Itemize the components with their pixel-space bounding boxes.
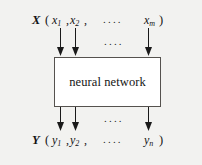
input-arrow-1: [56, 28, 65, 57]
input-term-m: xm: [144, 13, 155, 28]
output-close-paren: ): [159, 133, 163, 148]
output-vector-label: Y ( y1 , y2 , .... yn ): [0, 133, 202, 149]
output-arrow-1: [56, 107, 65, 132]
input-term-1-sub: 1: [57, 19, 61, 28]
input-arrows-ellipsis: ....: [104, 35, 124, 47]
output-term-1: y1: [52, 133, 61, 148]
input-comma-2: ,: [84, 13, 87, 28]
output-term-n-sub: n: [149, 139, 153, 148]
input-term-2-sub: 2: [75, 19, 79, 28]
output-arrow-2: [71, 107, 80, 132]
input-arrow-2: [71, 28, 80, 57]
output-vector-name: Y: [32, 133, 40, 148]
input-open-paren: (: [45, 13, 49, 28]
input-close-paren: ): [159, 13, 163, 28]
output-arrow-n: [144, 107, 153, 132]
output-open-paren: (: [45, 133, 49, 148]
input-vector-name: X: [32, 13, 41, 28]
output-comma-2: ,: [84, 133, 87, 148]
input-vector-label: X ( x1 , x2 , .... xm ): [0, 13, 202, 29]
output-term-2: y2: [70, 133, 79, 148]
neural-network-box: neural network: [54, 57, 161, 107]
input-term-1: x1: [52, 13, 61, 28]
neural-network-label: neural network: [69, 75, 146, 90]
output-comma-1: ,: [66, 133, 69, 148]
input-comma-1: ,: [66, 13, 69, 28]
input-vector-ellipsis: ....: [103, 13, 123, 25]
output-term-2-sub: 2: [75, 139, 79, 148]
output-term-1-sub: 1: [57, 139, 61, 148]
output-arrows-ellipsis: ....: [104, 112, 124, 124]
output-term-n: yn: [144, 133, 153, 148]
input-arrow-m: [144, 28, 153, 57]
neural-network-diagram: X ( x1 , x2 , .... xm ) .... neural netw…: [0, 0, 202, 165]
input-term-m-sub: m: [149, 19, 155, 28]
output-vector-ellipsis: ....: [103, 133, 123, 145]
input-term-2: x2: [70, 13, 79, 28]
